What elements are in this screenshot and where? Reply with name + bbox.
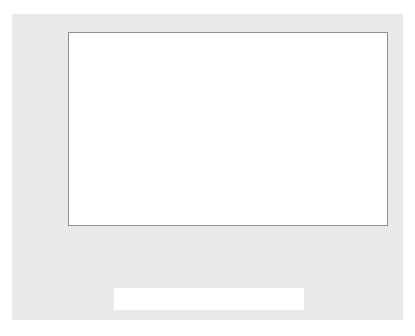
chart-legend (114, 288, 304, 310)
y-axis (34, 32, 68, 226)
bars-container (69, 33, 387, 225)
plot-area (68, 32, 388, 226)
chart-panel (12, 14, 403, 320)
x-axis-ticks (68, 226, 388, 232)
